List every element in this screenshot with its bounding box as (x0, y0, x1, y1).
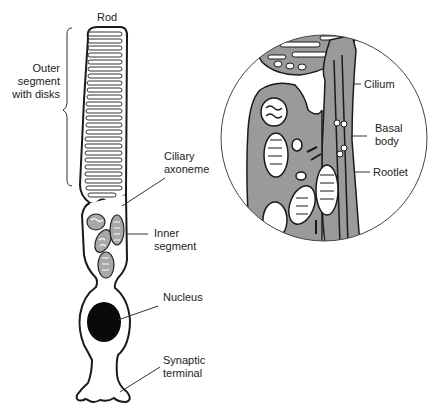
label-outer-segment-line1: Outer (2, 62, 60, 75)
label-rootlet: Rootlet (373, 166, 408, 179)
label-synaptic-terminal-line1: Synaptic (163, 354, 205, 367)
label-cilium: Cilium (364, 78, 395, 91)
label-outer-segment-line3: with disks (2, 88, 60, 101)
rod-cell-diagram (0, 0, 442, 413)
label-basal-body: Basal body (375, 122, 403, 148)
label-ciliary-axoneme: Ciliary axoneme (164, 150, 209, 176)
label-outer-segment: Outer segment with disks (2, 62, 60, 101)
inset-detail (247, 29, 360, 245)
label-synaptic-terminal: Synaptic terminal (163, 354, 205, 380)
label-basal-body-line1: Basal (375, 122, 403, 135)
nucleus (87, 302, 121, 342)
outer-segment-brace (63, 28, 72, 186)
label-inner-segment-line2: segment (154, 240, 196, 253)
label-synaptic-terminal-line2: terminal (163, 367, 205, 380)
label-ciliary-axoneme-line1: Ciliary (164, 150, 209, 163)
label-inner-segment: Inner segment (154, 227, 196, 253)
label-ciliary-axoneme-line2: axoneme (164, 163, 209, 176)
label-inner-segment-line1: Inner (154, 227, 196, 240)
label-nucleus: Nucleus (163, 291, 203, 304)
label-rod: Rod (97, 11, 117, 24)
label-outer-segment-line2: segment (2, 75, 60, 88)
label-basal-body-line2: body (375, 135, 403, 148)
